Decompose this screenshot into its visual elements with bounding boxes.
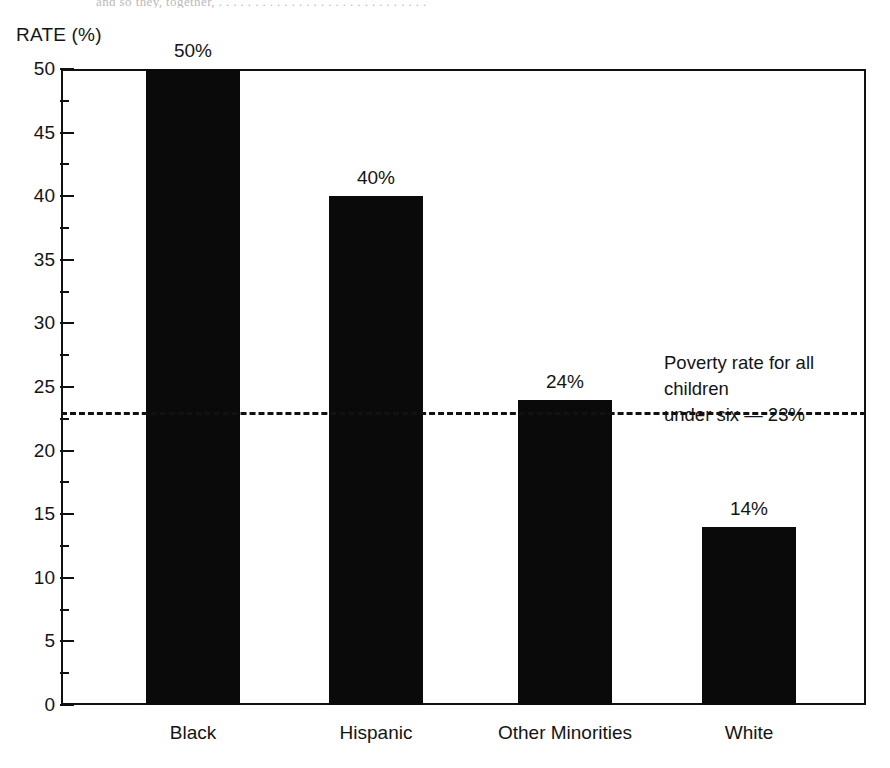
y-tick-label-50: 50: [11, 58, 55, 80]
y-tick-major-45: [60, 132, 74, 134]
plot-area: 50%40%24%14% Poverty rate for all childr…: [61, 69, 866, 705]
bar-black: [146, 69, 240, 705]
y-tick-minor: [60, 418, 69, 420]
y-tick-label-0: 0: [11, 694, 55, 716]
bar-value-label-black: 50%: [146, 40, 240, 62]
y-tick-label-15: 15: [11, 503, 55, 525]
y-tick-major-20: [60, 450, 74, 452]
y-tick-major-5: [60, 640, 74, 642]
y-tick-minor: [60, 672, 69, 674]
y-tick-minor: [60, 227, 69, 229]
y-tick-label-40: 40: [11, 185, 55, 207]
reference-line-annotation: Poverty rate for all children under six …: [664, 350, 866, 428]
y-axis-title: RATE (%): [16, 24, 102, 46]
bar-value-label-hispanic: 40%: [329, 167, 423, 189]
y-axis-tick-labels: 05101520253035404550: [0, 69, 55, 705]
y-tick-major-10: [60, 577, 74, 579]
y-tick-major-40: [60, 195, 74, 197]
y-tick-label-10: 10: [11, 567, 55, 589]
y-tick-label-45: 45: [11, 122, 55, 144]
y-tick-major-25: [60, 386, 74, 388]
poverty-rate-bar-chart: and so they, together, . . . . . . . . .…: [0, 0, 890, 768]
y-tick-major-30: [60, 322, 74, 324]
bar-white: [702, 527, 796, 705]
y-tick-major-0: [60, 704, 74, 706]
bar-other-minorities: [518, 400, 612, 705]
y-tick-minor: [60, 100, 69, 102]
scan-artifact-text: and so they, together, . . . . . . . . .…: [96, 0, 856, 8]
bar-value-label-white: 14%: [702, 498, 796, 520]
x-axis-label-white: White: [632, 722, 866, 744]
y-tick-minor: [60, 354, 69, 356]
y-tick-label-35: 35: [11, 249, 55, 271]
y-tick-minor: [60, 163, 69, 165]
y-tick-minor: [60, 481, 69, 483]
y-tick-major-15: [60, 513, 74, 515]
y-tick-label-20: 20: [11, 440, 55, 462]
bar-hispanic: [329, 196, 423, 705]
y-tick-label-30: 30: [11, 312, 55, 334]
y-tick-major-35: [60, 259, 74, 261]
bar-value-label-other-minorities: 24%: [518, 371, 612, 393]
y-tick-label-25: 25: [11, 376, 55, 398]
y-tick-minor: [60, 291, 69, 293]
y-tick-label-5: 5: [11, 630, 55, 652]
y-tick-minor: [60, 609, 69, 611]
y-tick-minor: [60, 545, 69, 547]
y-tick-major-50: [60, 68, 74, 70]
